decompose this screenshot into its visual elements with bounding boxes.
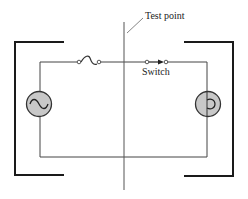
test-point-leader (127, 18, 143, 33)
ac-source-icon (27, 92, 52, 117)
test-point-label: Test point (145, 10, 185, 21)
circuit-diagram: Switch Test point (0, 0, 248, 199)
fuse-icon (77, 56, 101, 64)
switch-icon[interactable] (145, 60, 168, 65)
switch-label: Switch (142, 66, 170, 77)
lamp-icon (196, 92, 221, 117)
